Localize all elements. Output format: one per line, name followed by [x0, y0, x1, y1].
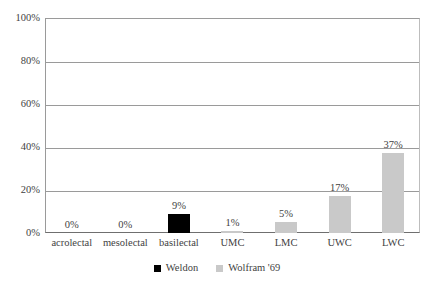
- y-axis-tick-label: 20%: [0, 185, 40, 196]
- bar: [221, 231, 243, 233]
- x-axis-tick-label: basilectal: [152, 236, 206, 249]
- y-axis-tick-label: 0%: [0, 228, 40, 239]
- bars-layer: 0%0%9%1%5%17%37%: [45, 18, 420, 233]
- bar: [275, 222, 297, 233]
- legend-swatch-icon: [154, 265, 161, 272]
- legend-item[interactable]: Wolfram '69: [216, 262, 280, 274]
- x-axis-tick-label: mesolectal: [99, 236, 153, 249]
- bar: [329, 196, 351, 233]
- bar-group: 9%: [152, 18, 206, 233]
- bar-group: 0%: [45, 18, 99, 233]
- bar-chart: 0%20%40%60%80%100% 0%0%9%1%5%17%37% acro…: [0, 0, 434, 286]
- bar-group: 17%: [313, 18, 367, 233]
- bar-value-label: 37%: [384, 139, 403, 150]
- y-axis-tick-label: 40%: [0, 142, 40, 153]
- bar-group: 0%: [99, 18, 153, 233]
- bar-value-label: 9%: [172, 200, 186, 211]
- y-axis-tick-label: 100%: [0, 13, 40, 24]
- legend-swatch-icon: [216, 265, 223, 272]
- legend-item[interactable]: Weldon: [154, 262, 198, 274]
- x-axis: acrolectalmesolectalbasilectalUMCLMCUWCL…: [45, 236, 420, 254]
- bar-group: 1%: [206, 18, 260, 233]
- bar: [382, 153, 404, 233]
- x-axis-tick-label: acrolectal: [45, 236, 99, 249]
- bar-value-label: 0%: [65, 219, 79, 230]
- y-axis-tick-label: 60%: [0, 99, 40, 110]
- chart-legend: WeldonWolfram '69: [0, 262, 434, 274]
- x-axis-tick-label: UMC: [206, 236, 260, 249]
- legend-label: Wolfram '69: [228, 262, 280, 274]
- x-axis-tick-label: LMC: [259, 236, 313, 249]
- x-axis-tick-label: LWC: [366, 236, 420, 249]
- bar-value-label: 0%: [118, 219, 132, 230]
- x-axis-tick-label: UWC: [313, 236, 367, 249]
- bar-value-label: 1%: [225, 217, 239, 228]
- bar-value-label: 5%: [279, 208, 293, 219]
- bar: [168, 214, 190, 233]
- bar-value-label: 17%: [330, 182, 349, 193]
- y-axis-tick-label: 80%: [0, 56, 40, 67]
- bar-group: 5%: [259, 18, 313, 233]
- bar-group: 37%: [366, 18, 420, 233]
- legend-label: Weldon: [166, 262, 198, 274]
- y-axis: 0%20%40%60%80%100%: [0, 0, 40, 286]
